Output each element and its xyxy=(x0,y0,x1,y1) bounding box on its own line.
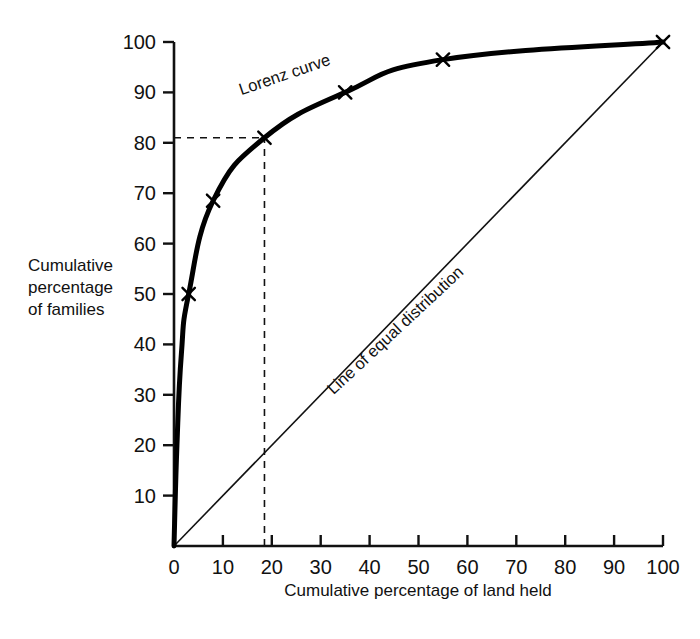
y-tick-label-70: 70 xyxy=(134,182,156,204)
x-tick-label-30: 30 xyxy=(310,556,332,578)
x-tick-label-100: 100 xyxy=(646,556,679,578)
x-tick-label-70: 70 xyxy=(505,556,527,578)
y-tick-label-10: 10 xyxy=(134,485,156,507)
lorenz-curve-chart: 102030405060708090100 010203040506070809… xyxy=(0,0,700,639)
y-tick-label-80: 80 xyxy=(134,132,156,154)
x-tick-label-40: 40 xyxy=(358,556,380,578)
x-tick-label-0: 0 xyxy=(168,556,179,578)
y-tick-label-90: 90 xyxy=(134,81,156,103)
y-tick-label-40: 40 xyxy=(134,333,156,355)
x-tick-label-10: 10 xyxy=(212,556,234,578)
y-axis-title: Cumulative percentage of families xyxy=(28,256,113,319)
y-tick-label-30: 30 xyxy=(134,384,156,406)
x-tick-label-90: 90 xyxy=(603,556,625,578)
x-tick-label-50: 50 xyxy=(407,556,429,578)
y-axis-title-line-2: percentage xyxy=(28,278,113,297)
x-tick-label-20: 20 xyxy=(261,556,283,578)
y-tick-label-60: 60 xyxy=(134,233,156,255)
x-axis-title: Cumulative percentage of land held xyxy=(284,581,551,600)
y-axis-title-line-3: of families xyxy=(28,300,105,319)
y-tick-label-50: 50 xyxy=(134,283,156,305)
x-tick-label-80: 80 xyxy=(554,556,576,578)
x-tick-label-60: 60 xyxy=(456,556,478,578)
y-tick-label-100: 100 xyxy=(123,31,156,53)
chart-canvas: 102030405060708090100 010203040506070809… xyxy=(0,0,700,639)
y-axis-title-line-1: Cumulative xyxy=(28,256,113,275)
y-tick-label-20: 20 xyxy=(134,434,156,456)
